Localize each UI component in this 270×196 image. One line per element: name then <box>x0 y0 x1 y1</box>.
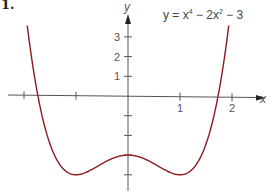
function-graph: 12123xy <box>0 0 270 196</box>
y-tick-label: 3 <box>114 31 120 43</box>
y-axis-label: y <box>123 0 131 14</box>
x-tick-label: 1 <box>177 102 183 114</box>
y-axis-arrow-icon <box>125 14 131 24</box>
x-tick-label: 2 <box>229 102 235 114</box>
x-axis-label: x <box>259 92 267 106</box>
x-axis <box>8 95 258 98</box>
y-tick-label: 1 <box>114 70 120 82</box>
y-tick-label: 2 <box>114 51 120 63</box>
